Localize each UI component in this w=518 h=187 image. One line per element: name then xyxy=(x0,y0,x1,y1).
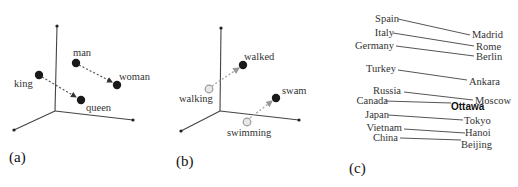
axis-left xyxy=(181,111,220,131)
country-label: Italy xyxy=(375,27,395,38)
axis-vertical xyxy=(220,28,221,111)
country-label: Germany xyxy=(355,40,395,51)
label-queen: queen xyxy=(86,102,112,113)
capital-label: Madrid xyxy=(472,29,504,40)
panel-a: king queen man woman (a) xyxy=(9,26,151,166)
point-walked xyxy=(239,61,247,69)
panel-b: walking walked swimming swam (b) xyxy=(176,28,307,170)
axis-vertical xyxy=(55,26,57,111)
label-king: king xyxy=(14,78,33,89)
connector-line xyxy=(398,70,467,80)
point-man xyxy=(72,59,80,67)
country-label: Canada xyxy=(357,95,389,106)
panel-label-c: (c) xyxy=(349,160,366,177)
country-label: China xyxy=(373,132,398,143)
connector-line xyxy=(400,138,461,140)
capital-label: Ankara xyxy=(469,76,500,87)
arrow-walking-walked xyxy=(212,68,239,86)
panel-label-b: (b) xyxy=(176,153,194,170)
capital-label: Ottawa xyxy=(451,101,485,112)
point-queen xyxy=(77,96,85,104)
point-woman xyxy=(113,81,121,89)
label-walking: walking xyxy=(179,93,214,104)
connector-line xyxy=(385,101,451,103)
point-walking xyxy=(205,85,213,93)
connector-line xyxy=(396,46,474,56)
capital-label: Hanoi xyxy=(465,127,491,138)
panel-label-a: (a) xyxy=(9,149,26,166)
axes-b xyxy=(181,28,299,131)
pair-turkey: TurkeyAnkara xyxy=(366,63,500,87)
point-swimming xyxy=(243,118,251,126)
label-woman: woman xyxy=(119,71,151,82)
axis-left xyxy=(14,111,55,130)
axis-right xyxy=(220,111,299,120)
connector-line xyxy=(398,19,470,35)
word-embedding-figure: king queen man woman (a) walking walked … xyxy=(0,0,518,187)
point-king xyxy=(35,71,43,79)
label-walked: walked xyxy=(244,51,275,62)
arrow-man-woman xyxy=(79,65,112,82)
arrow-king-queen xyxy=(42,77,76,97)
label-swam: swam xyxy=(282,85,307,96)
point-swam xyxy=(272,94,280,102)
connector-line xyxy=(388,115,463,120)
connector-line xyxy=(404,129,465,133)
label-man: man xyxy=(73,47,92,58)
connector-line xyxy=(393,33,474,46)
label-swimming: swimming xyxy=(227,127,272,138)
panel-c: (c) SpainMadridItalyRomeGermanyBerlinTur… xyxy=(349,13,512,177)
country-label: Spain xyxy=(375,13,400,24)
capital-label: Berlin xyxy=(476,51,503,62)
pair-spain: SpainMadrid xyxy=(375,13,504,40)
connector-line xyxy=(404,92,473,100)
country-label: Japan xyxy=(365,109,390,120)
capital-label: Tokyo xyxy=(464,115,491,126)
country-label: Turkey xyxy=(366,63,397,74)
capital-label: Beijing xyxy=(461,139,493,150)
